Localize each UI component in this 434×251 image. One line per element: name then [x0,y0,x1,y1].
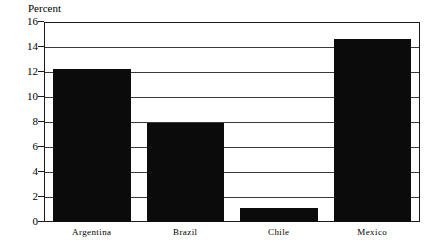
y-tick-label-2: 2 [4,191,38,202]
y-tick-mark-8 [38,121,44,122]
y-axis-title: Percent [28,2,61,15]
y-tick-label-4: 4 [4,166,38,177]
y-tick-label-8: 8 [4,116,38,127]
y-tick-mark-14 [38,46,44,47]
y-tick-label-6: 6 [4,141,38,152]
y-tick-label-14: 14 [4,41,38,52]
y-tick-label-0: 0 [4,216,38,227]
bar-slot-brazil [139,23,233,222]
x-label-chile: Chile [232,227,326,238]
bar-slot-chile [232,23,326,222]
bar-chart: Percent 1614121086420 ArgentinaBrazilChi… [0,0,434,251]
y-tick-label-12: 12 [4,66,38,77]
x-label-mexico: Mexico [326,227,420,238]
y-tick-mark-6 [38,146,44,147]
y-tick-mark-0 [38,221,44,222]
bar-mexico [334,39,412,222]
bar-slot-argentina [45,23,139,222]
bars-group [45,23,419,222]
bar-slot-mexico [326,23,420,222]
y-tick-mark-4 [38,171,44,172]
y-tick-mark-12 [38,71,44,72]
bar-chile [240,208,318,222]
x-axis-labels: ArgentinaBrazilChileMexico [45,227,419,238]
y-tick-label-16: 16 [4,16,38,27]
bar-brazil [147,123,225,223]
y-tick-mark-2 [38,196,44,197]
bar-argentina [53,69,131,222]
y-tick-label-10: 10 [4,91,38,102]
x-label-argentina: Argentina [45,227,139,238]
y-tick-mark-10 [38,96,44,97]
x-label-brazil: Brazil [139,227,233,238]
y-tick-mark-16 [38,21,44,22]
